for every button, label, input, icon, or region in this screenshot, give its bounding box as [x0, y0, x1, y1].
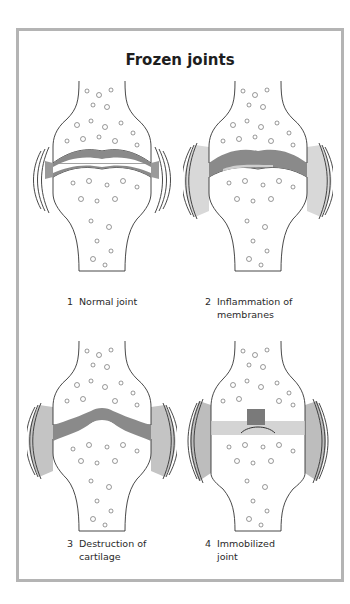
caption-text: Destruction of cartilage: [79, 537, 155, 563]
panel-normal-joint: [27, 81, 177, 296]
caption-text: Inflammation of membranes: [217, 295, 299, 321]
figure-frame: Frozen joints 1 Norma: [16, 28, 344, 582]
caption-number: 4: [205, 537, 211, 550]
caption-number: 3: [67, 537, 73, 550]
caption-number: 1: [67, 295, 73, 308]
normal-joint-illustration: [27, 81, 177, 296]
figure-title: Frozen joints: [19, 51, 341, 69]
caption-text: Normal joint: [79, 295, 189, 308]
panel-immobilized-joint: [183, 341, 333, 546]
panel-destroyed-cartilage-joint: [27, 341, 177, 546]
immobilized-joint-illustration: [183, 341, 333, 546]
panel-inflamed-joint: [183, 81, 333, 296]
caption-text: Immobilized joint: [217, 537, 287, 563]
destroyed-cartilage-illustration: [27, 341, 177, 546]
caption-number: 2: [205, 295, 211, 308]
inflamed-joint-illustration: [183, 81, 333, 296]
